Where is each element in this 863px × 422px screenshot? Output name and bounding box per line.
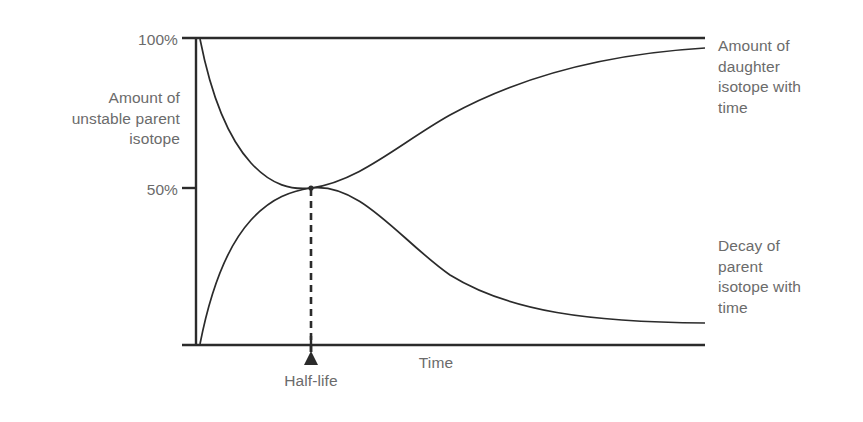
decay-curve-annotation: Decay of parent isotope with time <box>718 236 858 318</box>
y-tick-label-100: 100% <box>90 30 178 51</box>
growth-curve-annotation: Amount of daughter isotope with time <box>718 36 858 118</box>
intersection-point <box>308 185 313 190</box>
decay-curve <box>200 39 705 323</box>
y-tick-label-50: 50% <box>90 180 178 201</box>
x-axis-label: Time <box>390 353 482 374</box>
y-axis-label: Amount of unstable parent isotope <box>20 88 180 150</box>
halflife-label: Half-life <box>251 371 371 392</box>
growth-curve <box>200 48 705 344</box>
halflife-arrow-icon <box>304 351 318 365</box>
